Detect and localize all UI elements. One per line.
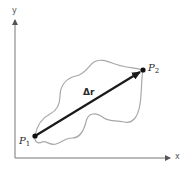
p1-name: P [19, 135, 26, 146]
x-axis-label: x [175, 153, 180, 161]
displacement-vector [35, 72, 140, 136]
point-p1 [32, 133, 37, 138]
p2-name: P [148, 62, 155, 73]
p2-subscript: 2 [155, 67, 159, 75]
y-axis-label: y [12, 7, 17, 15]
p1-subscript: 1 [26, 140, 30, 148]
p2-label: P2 [148, 63, 159, 75]
delta-r-label: Δr [83, 88, 94, 97]
point-p2 [140, 67, 145, 72]
p1-label: P1 [19, 136, 30, 148]
